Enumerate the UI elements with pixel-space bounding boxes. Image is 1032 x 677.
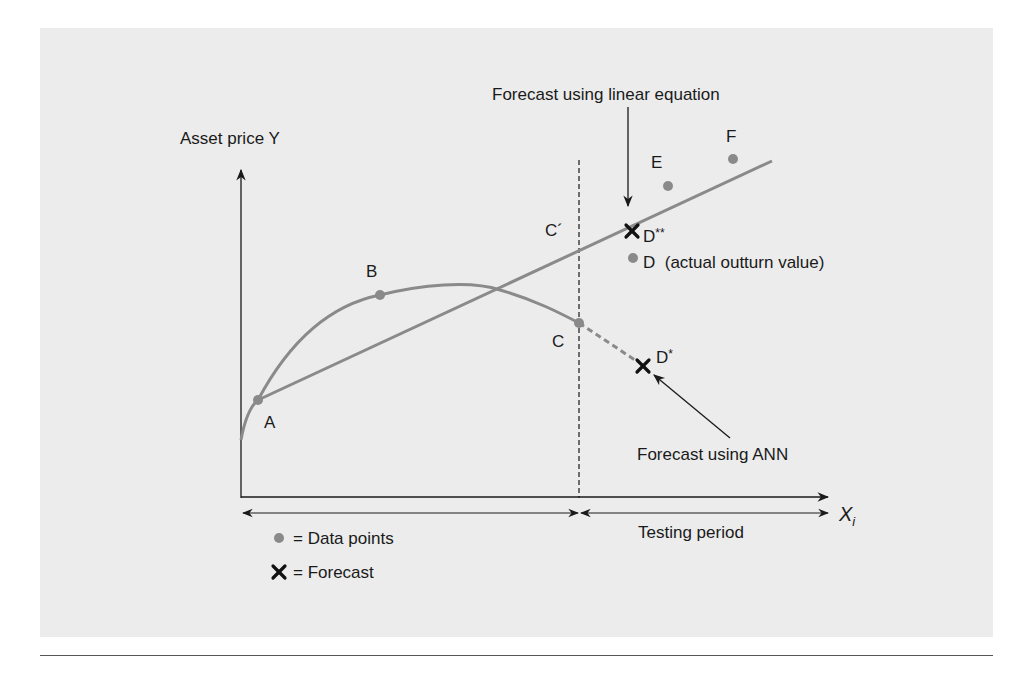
y-axis-label: Asset price Y <box>180 130 280 147</box>
d-note: (actual outturn value) <box>665 253 825 272</box>
linear-regression-line <box>258 161 772 400</box>
ann-annotation-arrow <box>654 375 730 438</box>
point-a <box>253 395 263 405</box>
label-d-double-star: D** <box>643 228 665 245</box>
d-double-star-sup: ** <box>655 226 664 240</box>
x-axis-label: Xi <box>839 504 855 524</box>
x-axis-subscript: i <box>852 514 855 529</box>
d-double-star-letter: D <box>643 227 655 246</box>
label-d-star: D* <box>656 349 673 366</box>
point-c <box>574 318 584 328</box>
label-d: D (actual outturn value) <box>643 254 824 271</box>
d-letter: D <box>643 253 655 272</box>
d-star-sup: * <box>668 347 673 361</box>
ann-forecast-annotation: Forecast using ANN <box>637 446 788 463</box>
point-d <box>628 253 638 263</box>
ann-curve <box>241 285 579 440</box>
linear-forecast-annotation: Forecast using linear equation <box>492 86 720 103</box>
label-e: E <box>651 154 662 171</box>
legend-data-points-label: = Data points <box>293 530 394 547</box>
label-a: A <box>264 414 275 431</box>
forecast-dstar-cross-icon <box>637 360 649 372</box>
testing-period-label: Testing period <box>638 524 744 541</box>
label-b: B <box>366 263 377 280</box>
point-b <box>375 290 385 300</box>
label-f: F <box>726 128 736 145</box>
ann-forecast-line <box>579 323 638 362</box>
label-c: C <box>552 333 564 350</box>
d-star-letter: D <box>656 348 668 367</box>
point-e <box>663 181 673 191</box>
legend-forecast-cross-icon <box>273 566 285 578</box>
x-axis-letter: X <box>839 503 852 525</box>
legend-forecast-label: = Forecast <box>293 564 374 581</box>
point-f <box>728 154 738 164</box>
label-c-prime: C´ <box>545 222 563 239</box>
legend-data-point-icon <box>274 533 284 543</box>
